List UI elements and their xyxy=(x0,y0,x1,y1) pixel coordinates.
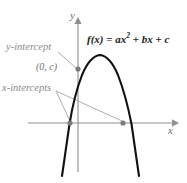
label-x-intercepts: x-intercepts xyxy=(2,83,51,94)
label-axis-y: y xyxy=(70,10,75,21)
point-y-intercept xyxy=(75,66,80,71)
point-x-intercept-right xyxy=(120,120,125,125)
function-plus-1: + xyxy=(130,33,142,45)
leader-line-x-intercept-right xyxy=(56,91,122,121)
x-axis xyxy=(28,119,179,127)
function-equals: = xyxy=(104,33,116,45)
function-plus-2: + xyxy=(153,33,165,45)
function-term-b: bx xyxy=(142,33,153,45)
quadratic-function-figure: y-intercept x-intercepts (0, c) y x f(x)… xyxy=(0,0,187,183)
label-point-0c: (0, c) xyxy=(36,62,57,72)
point-x-intercept-left xyxy=(67,120,72,125)
label-function-equation: f(x) = ax2 + bx + c xyxy=(87,32,169,45)
label-axis-x: x xyxy=(168,125,173,136)
leader-line-x-intercept-left xyxy=(56,91,70,121)
x-axis-arrowhead xyxy=(172,119,179,127)
function-term-c: c xyxy=(165,33,170,45)
label-y-intercept: y-intercept xyxy=(6,42,51,53)
function-argument: (x) xyxy=(91,33,104,45)
parabola-curve xyxy=(62,55,139,176)
function-term-a: ax xyxy=(115,33,126,45)
y-axis-arrowhead xyxy=(74,17,81,24)
leader-line-y-intercept xyxy=(58,52,76,68)
